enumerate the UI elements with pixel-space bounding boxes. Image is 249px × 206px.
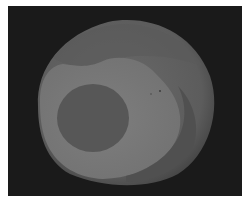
inner-core xyxy=(57,84,129,152)
sphere-image xyxy=(8,6,242,196)
speck xyxy=(150,93,152,95)
speck xyxy=(159,90,161,92)
image-frame xyxy=(8,6,242,196)
caption xyxy=(0,197,249,206)
